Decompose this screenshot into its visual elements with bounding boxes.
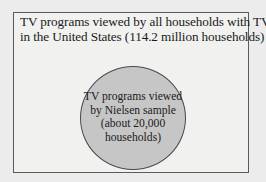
sample-label-line-4: households): [80, 131, 186, 145]
population-label-line-1: TV programs viewed by all households wit…: [20, 14, 256, 29]
population-label-line-2: in the United States (114.2 million hous…: [20, 29, 256, 44]
sample-label-line-1: TV programs viewed: [80, 90, 186, 104]
population-label: TV programs viewed by all households wit…: [20, 14, 256, 44]
sample-label: TV programs viewed by Nielsen sample (ab…: [80, 90, 186, 144]
sample-label-line-2: by Nielsen sample: [80, 104, 186, 118]
sample-label-line-3: (about 20,000: [80, 117, 186, 131]
